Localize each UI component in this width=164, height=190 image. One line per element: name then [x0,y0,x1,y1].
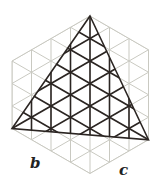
triangle-lattice-diagram: b c [0,0,164,190]
label-b: b [30,154,41,172]
label-c: c [119,161,128,179]
